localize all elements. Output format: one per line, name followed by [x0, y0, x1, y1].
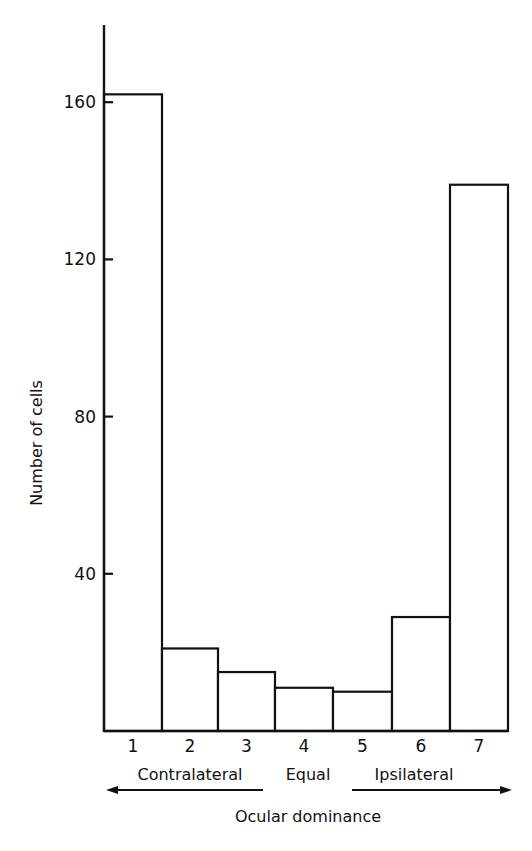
bar-3: [218, 672, 275, 731]
x-tick-label: 7: [474, 736, 485, 756]
ocular-dominance-histogram: 4080120160 1234567 Number of cells Contr…: [0, 0, 532, 851]
bar-2: [162, 648, 218, 731]
y-tick-label: 120: [64, 249, 96, 269]
group-label-equal: Equal: [286, 765, 331, 784]
y-axis-label: Number of cells: [27, 380, 46, 506]
y-tick-label: 40: [74, 564, 96, 584]
bar-5: [333, 692, 392, 731]
group-label-ipsilateral: Ipsilateral: [375, 765, 454, 784]
x-tick-label: 1: [128, 736, 139, 756]
x-tick-label: 6: [416, 736, 427, 756]
group-label-contralateral: Contralateral: [138, 765, 243, 784]
x-axis-ticks: 1234567: [128, 736, 485, 756]
x-tick-label: 2: [185, 736, 196, 756]
y-tick-label: 160: [64, 92, 96, 112]
bar-1: [104, 94, 162, 731]
bar-7: [450, 185, 508, 731]
x-tick-label: 5: [357, 736, 368, 756]
right-arrow-icon: [352, 786, 512, 794]
histogram-bars: [104, 94, 508, 731]
left-arrow-icon: [106, 786, 263, 794]
bar-4: [275, 688, 333, 731]
x-axis-label: Ocular dominance: [235, 807, 381, 826]
y-tick-label: 80: [74, 407, 96, 427]
bar-6: [392, 617, 450, 731]
x-tick-label: 4: [299, 736, 310, 756]
x-tick-label: 3: [241, 736, 252, 756]
